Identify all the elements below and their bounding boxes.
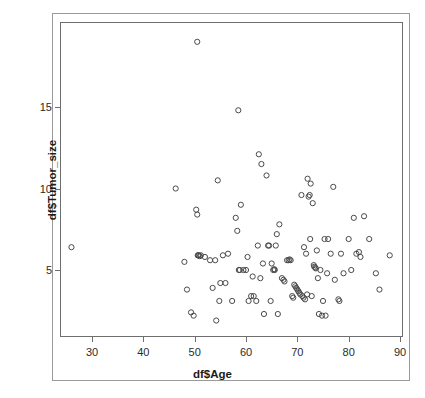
x-tick-label: 40 <box>137 346 149 358</box>
y-axis-title: df$Tumor_size <box>46 140 58 220</box>
x-axis-title: df$Age <box>0 368 425 380</box>
y-tick-label: 5 <box>32 264 52 276</box>
x-tick-label: 70 <box>291 346 303 358</box>
x-tick-mark <box>349 337 350 342</box>
plot-panel-border <box>60 22 403 337</box>
x-tick-mark <box>400 337 401 342</box>
x-tick-label: 60 <box>240 346 252 358</box>
x-tick-mark <box>143 337 144 342</box>
y-tick-label: 15 <box>32 101 52 113</box>
y-tick-mark <box>55 107 60 108</box>
x-tick-label: 90 <box>394 346 406 358</box>
x-tick-label: 30 <box>86 346 98 358</box>
x-tick-mark <box>297 337 298 342</box>
x-tick-mark <box>92 337 93 342</box>
x-tick-label: 80 <box>343 346 355 358</box>
y-tick-mark <box>55 270 60 271</box>
x-tick-mark <box>195 337 196 342</box>
x-tick-mark <box>246 337 247 342</box>
x-tick-label: 50 <box>189 346 201 358</box>
scatter-plot-figure: 30405060708090 51015 df$Age df$Tumor_siz… <box>0 0 425 398</box>
